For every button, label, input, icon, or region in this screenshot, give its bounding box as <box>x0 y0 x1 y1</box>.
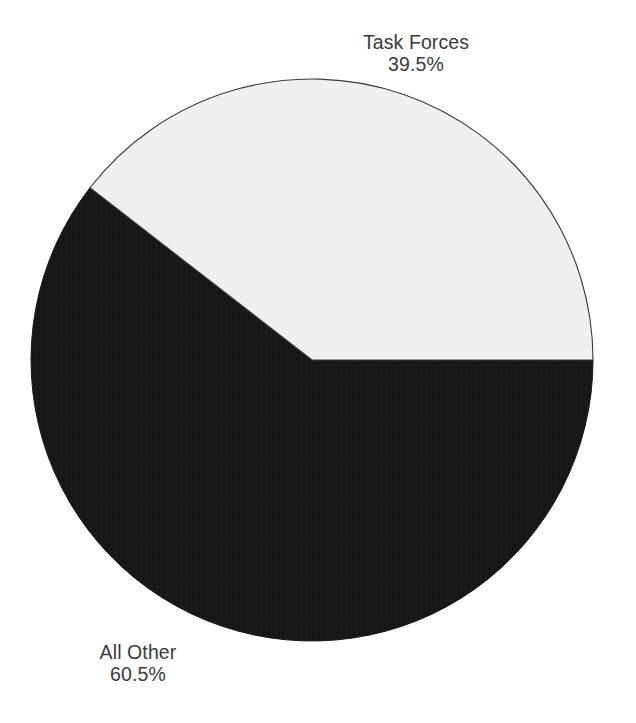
pie-label-task-forces-value: 39.5% <box>296 53 536 75</box>
pie-chart: Task Forces 39.5% All Other 60.5% <box>0 0 636 723</box>
pie-label-all-other-value: 60.5% <box>18 663 258 685</box>
pie-label-task-forces-name: Task Forces <box>296 31 536 53</box>
pie-figure <box>0 0 636 723</box>
pie-label-task-forces: Task Forces 39.5% <box>296 31 536 75</box>
pie-svg <box>0 0 636 723</box>
pie-label-all-other: All Other 60.5% <box>18 641 258 685</box>
pie-label-all-other-name: All Other <box>18 641 258 663</box>
